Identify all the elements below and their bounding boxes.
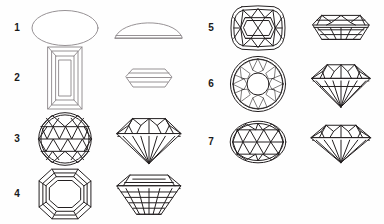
gem-item-number-7: 7 [204,137,218,147]
gem-face-view-emerald [24,168,106,220]
gem-face-view-round-star [24,111,106,167]
gem-face-view-oval [218,120,299,164]
gem-face-view-baguette [24,45,106,111]
gem-item-number-1: 1 [10,23,24,33]
gem-row-6: 6 [204,54,384,114]
gem-profile-view-round-star [106,113,192,165]
gem-profile-view-round-brilliant [299,59,384,109]
gem-face-view-round-brilliant [218,55,299,113]
gem-row-5: 5 [204,2,384,54]
gem-profile-view-baguette [106,63,192,93]
gem-face-view-cabochon [24,8,106,48]
gem-row-7: 7 [204,116,384,168]
gem-item-number-3: 3 [10,134,24,144]
gem-profile-view-oval [299,120,384,164]
gem-profile-view-cushion [299,8,384,48]
gem-item-number-5: 5 [204,23,218,33]
gem-profile-view-emerald [106,171,192,217]
gem-row-2: 2 [10,44,200,112]
gem-row-4: 4 [10,166,200,222]
gem-item-number-4: 4 [10,189,24,199]
gem-face-view-cushion [218,5,299,51]
gem-item-number-6: 6 [204,79,218,89]
gem-profile-view-cabochon [106,13,192,43]
gem-cuts-figure: 1 2 [0,0,384,224]
gem-row-3: 3 [10,110,200,168]
gem-item-number-2: 2 [10,73,24,83]
